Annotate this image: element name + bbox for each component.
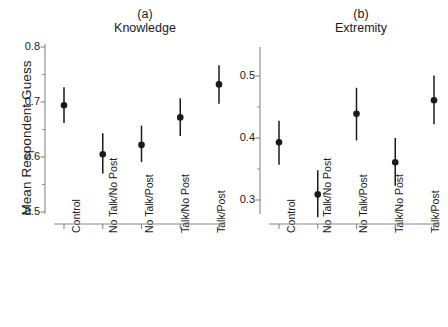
panel-a-data-points bbox=[61, 65, 223, 173]
panel-b-data-points bbox=[276, 75, 438, 217]
figure-root: Mean Respondent Guess (a) Knowledge (b) … bbox=[0, 0, 448, 327]
plot-canvas bbox=[0, 0, 448, 327]
panel-a-axes bbox=[41, 44, 226, 229]
panel-b-axes bbox=[256, 47, 441, 229]
